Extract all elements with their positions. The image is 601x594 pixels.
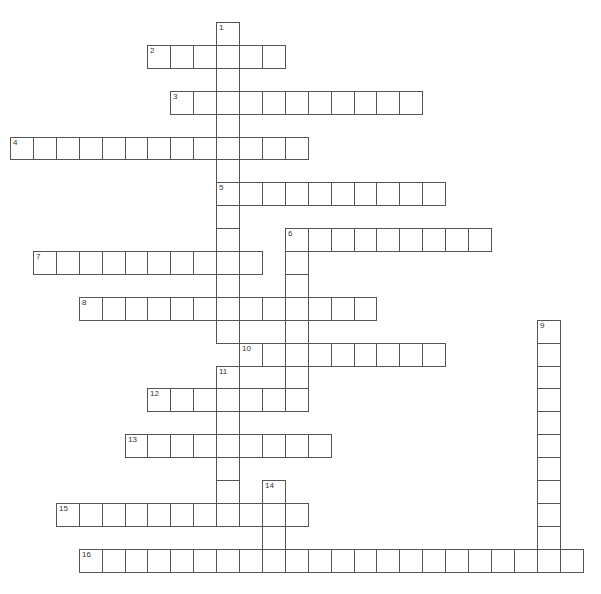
crossword-cell[interactable]: 6 [285, 228, 309, 252]
crossword-cell[interactable] [399, 91, 423, 115]
crossword-cell[interactable] [537, 503, 561, 527]
crossword-cell[interactable] [308, 434, 332, 458]
crossword-cell[interactable] [331, 182, 355, 206]
crossword-cell[interactable] [537, 457, 561, 481]
crossword-cell[interactable] [285, 503, 309, 527]
crossword-cell[interactable] [376, 549, 400, 573]
crossword-cell[interactable] [216, 411, 240, 435]
crossword-cell[interactable] [354, 182, 377, 206]
crossword-cell[interactable] [331, 228, 355, 252]
crossword-cell[interactable] [422, 343, 446, 367]
crossword-cell[interactable] [239, 388, 263, 412]
crossword-cell[interactable] [193, 45, 217, 69]
crossword-cell[interactable] [79, 137, 103, 160]
crossword-cell[interactable] [102, 137, 126, 160]
crossword-cell[interactable] [422, 182, 446, 206]
crossword-cell[interactable] [216, 228, 240, 252]
crossword-cell[interactable]: 4 [10, 137, 34, 160]
crossword-cell[interactable]: 12 [147, 388, 171, 412]
crossword-cell[interactable] [79, 251, 103, 275]
crossword-cell[interactable] [216, 549, 240, 573]
crossword-cell[interactable] [262, 137, 286, 160]
crossword-cell[interactable]: 10 [239, 343, 263, 367]
crossword-cell[interactable] [262, 343, 286, 367]
crossword-cell[interactable] [239, 297, 263, 321]
crossword-cell[interactable]: 8 [79, 297, 103, 321]
crossword-cell[interactable] [102, 503, 126, 527]
crossword-cell[interactable] [354, 297, 377, 321]
crossword-cell[interactable] [125, 297, 148, 321]
crossword-cell[interactable] [537, 480, 561, 504]
crossword-cell[interactable] [102, 297, 126, 321]
crossword-cell[interactable] [216, 114, 240, 138]
crossword-cell[interactable]: 7 [33, 251, 57, 275]
crossword-cell[interactable] [376, 91, 400, 115]
crossword-cell[interactable] [216, 251, 240, 275]
crossword-cell[interactable] [285, 549, 309, 573]
crossword-cell[interactable] [331, 549, 355, 573]
crossword-cell[interactable] [285, 297, 309, 321]
crossword-cell[interactable] [216, 274, 240, 298]
crossword-cell[interactable] [216, 91, 240, 115]
crossword-cell[interactable] [308, 182, 332, 206]
crossword-cell[interactable] [308, 91, 332, 115]
crossword-cell[interactable] [262, 297, 286, 321]
crossword-cell[interactable] [491, 549, 515, 573]
crossword-cell[interactable] [193, 434, 217, 458]
crossword-cell[interactable] [285, 388, 309, 412]
crossword-cell[interactable] [170, 503, 194, 527]
crossword-cell[interactable] [262, 91, 286, 115]
crossword-cell[interactable] [239, 549, 263, 573]
crossword-cell[interactable] [170, 388, 194, 412]
crossword-cell[interactable] [376, 343, 400, 367]
crossword-cell[interactable] [79, 503, 103, 527]
crossword-cell[interactable] [239, 45, 263, 69]
crossword-cell[interactable] [239, 503, 263, 527]
crossword-cell[interactable] [147, 251, 171, 275]
crossword-cell[interactable]: 1 [216, 22, 240, 46]
crossword-cell[interactable] [170, 45, 194, 69]
crossword-cell[interactable] [56, 137, 80, 160]
crossword-cell[interactable] [285, 137, 309, 160]
crossword-cell[interactable] [262, 526, 286, 550]
crossword-cell[interactable] [125, 137, 148, 160]
crossword-cell[interactable]: 5 [216, 182, 240, 206]
crossword-cell[interactable] [147, 434, 171, 458]
crossword-cell[interactable] [537, 411, 561, 435]
crossword-cell[interactable]: 16 [79, 549, 103, 573]
crossword-cell[interactable] [147, 503, 171, 527]
crossword-cell[interactable] [216, 45, 240, 69]
crossword-cell[interactable] [537, 549, 561, 573]
crossword-cell[interactable] [308, 343, 332, 367]
crossword-cell[interactable] [422, 228, 446, 252]
crossword-cell[interactable] [239, 434, 263, 458]
crossword-cell[interactable] [216, 297, 240, 321]
crossword-cell[interactable] [216, 388, 240, 412]
crossword-cell[interactable] [331, 91, 355, 115]
crossword-cell[interactable] [147, 549, 171, 573]
crossword-cell[interactable] [285, 182, 309, 206]
crossword-cell[interactable] [239, 251, 263, 275]
crossword-cell[interactable]: 9 [537, 320, 561, 344]
crossword-cell[interactable]: 13 [125, 434, 148, 458]
crossword-cell[interactable]: 11 [216, 366, 240, 389]
crossword-cell[interactable] [537, 343, 561, 367]
crossword-cell[interactable] [193, 549, 217, 573]
crossword-cell[interactable] [285, 343, 309, 367]
crossword-cell[interactable] [147, 297, 171, 321]
crossword-cell[interactable] [170, 549, 194, 573]
crossword-cell[interactable] [285, 251, 309, 275]
crossword-cell[interactable] [376, 182, 400, 206]
crossword-cell[interactable] [193, 137, 217, 160]
crossword-cell[interactable] [468, 549, 492, 573]
crossword-cell[interactable] [216, 320, 240, 344]
crossword-cell[interactable] [102, 251, 126, 275]
crossword-cell[interactable] [262, 182, 286, 206]
crossword-cell[interactable] [125, 549, 148, 573]
crossword-cell[interactable] [262, 503, 286, 527]
crossword-cell[interactable] [216, 68, 240, 92]
crossword-cell[interactable] [170, 297, 194, 321]
crossword-cell[interactable] [239, 137, 263, 160]
crossword-cell[interactable] [193, 251, 217, 275]
crossword-cell[interactable] [262, 434, 286, 458]
